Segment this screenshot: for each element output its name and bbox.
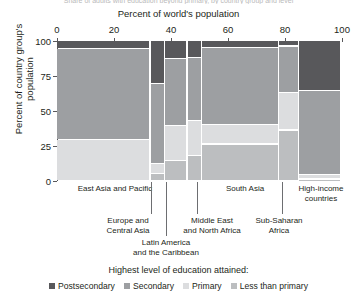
mosaic-segment (57, 49, 149, 139)
category-label-line: Europe and (92, 216, 164, 226)
category-label-high-income-countries: High-incomecountries (288, 184, 354, 203)
category-label-line: High-income (288, 184, 354, 194)
mosaic-segment (299, 180, 340, 181)
x-tick-label-40: 40 (166, 24, 177, 35)
mosaic-segment (188, 156, 201, 180)
mosaic-segment (202, 48, 277, 124)
legend-label: Postsecondary (58, 281, 115, 291)
category-label-line: countries (288, 194, 354, 204)
x-axis-title: Percent of world's population (0, 8, 357, 19)
cropped-figure-title: Share of adults with education beyond pr… (0, 0, 357, 4)
x-tick-label-0: 0 (54, 24, 59, 35)
category-label-east-asia-and-pacific: East Asia and Pacific (60, 184, 170, 194)
mosaic-segment (165, 41, 186, 58)
plot-area (57, 41, 342, 181)
mosaic-column (299, 41, 340, 181)
mosaic-segment (188, 58, 201, 120)
legend-swatch (124, 283, 130, 289)
legend: PostsecondarySecondaryPrimaryLess than p… (0, 281, 357, 291)
category-label-line: South Asia (205, 184, 285, 194)
y-tick-label-25: 25 (40, 141, 51, 152)
mosaic-segment (165, 126, 186, 160)
category-label-line: Central Asia (92, 226, 164, 236)
leader-line-sub-saharan-africa (282, 182, 283, 214)
mosaic-segment (299, 41, 340, 90)
category-label-europe-and-central-asia: Europe andCentral Asia (92, 216, 164, 235)
mosaic-segment (188, 121, 201, 155)
legend-item[interactable]: Secondary (124, 281, 174, 291)
mosaic-segment (151, 84, 164, 163)
y-tick-label-75: 75 (40, 71, 51, 82)
x-tick-label-80: 80 (280, 24, 291, 35)
mosaic-segment (279, 47, 297, 92)
legend-swatch (49, 283, 55, 289)
mosaic-segment (151, 174, 164, 180)
category-label-line: and North Africa (170, 226, 254, 236)
category-label-middle-east-north-africa: Middle Eastand North Africa (170, 216, 254, 235)
mosaic-column (151, 41, 164, 181)
category-label-line: Africa (244, 226, 314, 236)
category-label-line: Middle East (170, 216, 254, 226)
x-tick-label-60: 60 (223, 24, 234, 35)
mosaic-column (188, 41, 201, 181)
leader-line-europe-and-central-asia (151, 182, 152, 214)
mosaic-segment (299, 175, 340, 178)
x-tick-100 (342, 38, 343, 42)
mosaic-segment (151, 41, 164, 83)
mosaic-segment (202, 145, 277, 180)
legend-swatch (231, 283, 237, 289)
y-tick-label-50: 50 (40, 106, 51, 117)
legend-label: Primary (192, 281, 222, 291)
mosaic-segment (57, 140, 149, 179)
category-label-south-asia: South Asia (205, 184, 285, 194)
mosaic-columns (57, 41, 342, 181)
category-label-line: East Asia and Pacific (60, 184, 170, 194)
mosaic-column (57, 41, 149, 181)
x-tick-label-20: 20 (109, 24, 120, 35)
x-axis-tick-labels: 020406080100 (57, 24, 342, 38)
mosaic-segment (202, 41, 277, 47)
mosaic-segment (279, 93, 297, 130)
y-axis: 0255075100 (40, 41, 57, 181)
legend-swatch (183, 283, 189, 289)
leader-line-middle-east-north-africa (197, 182, 198, 214)
x-tick-label-100: 100 (334, 24, 350, 35)
y-axis-title: Percent of country group's population (13, 9, 35, 149)
category-label-latin-america: Latin Americaand the Caribbean (122, 238, 210, 257)
y-tick-0 (53, 181, 57, 182)
legend-label: Secondary (133, 281, 174, 291)
chart-root: Share of adults with education beyond pr… (0, 0, 357, 303)
y-tick-label-100: 100 (35, 36, 51, 47)
mosaic-segment (57, 41, 149, 48)
legend-label: Less than primary (240, 281, 308, 291)
category-label-line: Sub-Saharan (244, 216, 314, 226)
mosaic-segment (279, 41, 297, 45)
legend-item[interactable]: Postsecondary (49, 281, 115, 291)
legend-title: Highest level of education attained: (0, 265, 357, 275)
mosaic-segment (279, 131, 297, 180)
mosaic-segment (202, 125, 277, 143)
category-label-sub-saharan-africa: Sub-SaharanAfrica (244, 216, 314, 235)
mosaic-segment (151, 164, 164, 173)
mosaic-column (279, 41, 297, 181)
mosaic-segment (299, 91, 340, 174)
y-tick-label-0: 0 (46, 176, 51, 187)
category-label-line: Latin America (122, 238, 210, 248)
category-label-line: and the Caribbean (122, 248, 210, 258)
legend-item[interactable]: Less than primary (231, 281, 308, 291)
mosaic-segment (188, 41, 201, 57)
mosaic-segment (165, 161, 186, 179)
mosaic-column (202, 41, 277, 181)
legend-item[interactable]: Primary (183, 281, 222, 291)
leader-line-latin-america (166, 182, 167, 236)
mosaic-column (165, 41, 186, 181)
mosaic-segment (165, 59, 186, 125)
